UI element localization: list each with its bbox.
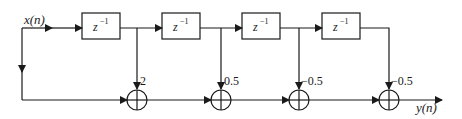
delay-label-4: z −1: [332, 17, 349, 34]
delay-label-2: z −1: [172, 17, 189, 34]
svg-text:z: z: [332, 20, 338, 34]
svg-text:z: z: [172, 20, 178, 34]
adder-3: [289, 90, 309, 110]
adder-4: [379, 90, 399, 110]
svg-text:−1: −1: [260, 17, 269, 26]
svg-text:z: z: [92, 20, 98, 34]
tap-2-coefficient: 0.5: [224, 74, 239, 88]
svg-text:z: z: [252, 20, 258, 34]
delay-label-3: z −1: [252, 17, 269, 34]
svg-text:−1: −1: [340, 17, 349, 26]
adder-2: [211, 90, 231, 110]
delay4-to-adder4: [360, 28, 389, 89]
tap-1-coefficient: 2: [140, 74, 146, 88]
svg-text:−1: −1: [100, 17, 109, 26]
fir-filter-diagram: x(n) y(n) z −1 z −1 z −1 z −1 2 0.5 −0.5…: [0, 0, 462, 119]
delay-label-1: z −1: [92, 17, 109, 34]
tap-3-coefficient: −0.5: [301, 74, 323, 88]
adder-1: [127, 90, 147, 110]
output-label: y(n): [414, 100, 437, 115]
tap-4-coefficient: −0.5: [391, 74, 413, 88]
input-label: x(n): [23, 12, 45, 27]
svg-text:−1: −1: [180, 17, 189, 26]
